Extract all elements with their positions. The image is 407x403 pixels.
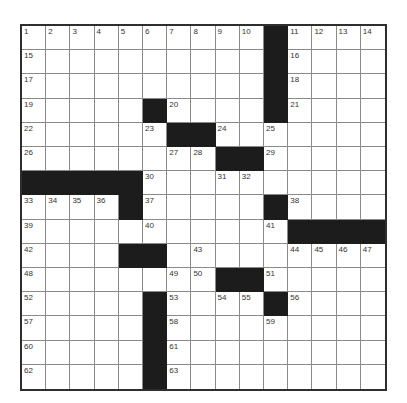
grid-cell[interactable] [46,147,70,171]
grid-cell[interactable] [240,316,264,340]
grid-cell[interactable] [119,365,143,389]
grid-cell[interactable]: 59 [264,316,288,340]
grid-cell[interactable]: 39 [22,220,46,244]
grid-cell[interactable] [167,244,191,268]
grid-cell[interactable] [70,268,94,292]
grid-cell[interactable] [312,147,336,171]
grid-cell[interactable] [191,50,215,74]
grid-cell[interactable] [95,365,119,389]
grid-cell[interactable] [46,365,70,389]
grid-cell[interactable] [361,123,385,147]
grid-cell[interactable] [191,365,215,389]
grid-cell[interactable] [240,50,264,74]
grid-cell[interactable]: 21 [288,99,312,123]
grid-cell[interactable]: 43 [191,244,215,268]
grid-cell[interactable] [70,147,94,171]
grid-cell[interactable] [46,123,70,147]
grid-cell[interactable]: 53 [167,292,191,316]
grid-cell[interactable] [312,268,336,292]
grid-cell[interactable] [216,195,240,219]
grid-cell[interactable]: 26 [22,147,46,171]
grid-cell[interactable]: 38 [288,195,312,219]
grid-cell[interactable] [312,50,336,74]
grid-cell[interactable]: 15 [22,50,46,74]
grid-cell[interactable]: 32 [240,171,264,195]
grid-cell[interactable] [95,268,119,292]
grid-cell[interactable]: 50 [191,268,215,292]
grid-cell[interactable] [312,195,336,219]
grid-cell[interactable] [46,316,70,340]
grid-cell[interactable]: 17 [22,74,46,98]
grid-cell[interactable]: 11 [288,26,312,50]
grid-cell[interactable]: 24 [216,123,240,147]
grid-cell[interactable]: 18 [288,74,312,98]
grid-cell[interactable] [361,147,385,171]
grid-cell[interactable] [312,341,336,365]
grid-cell[interactable]: 9 [216,26,240,50]
grid-cell[interactable] [240,341,264,365]
grid-cell[interactable]: 10 [240,26,264,50]
grid-cell[interactable] [70,244,94,268]
grid-cell[interactable] [46,99,70,123]
grid-cell[interactable] [70,316,94,340]
grid-cell[interactable] [361,195,385,219]
grid-cell[interactable]: 42 [22,244,46,268]
grid-cell[interactable] [70,123,94,147]
grid-cell[interactable] [337,123,361,147]
grid-cell[interactable] [70,74,94,98]
grid-cell[interactable] [337,341,361,365]
grid-cell[interactable] [70,99,94,123]
grid-cell[interactable]: 30 [143,171,167,195]
grid-cell[interactable] [191,171,215,195]
grid-cell[interactable] [240,99,264,123]
grid-cell[interactable] [312,123,336,147]
grid-cell[interactable] [337,316,361,340]
grid-cell[interactable]: 27 [167,147,191,171]
grid-cell[interactable] [191,316,215,340]
grid-cell[interactable] [288,171,312,195]
grid-cell[interactable]: 61 [167,341,191,365]
grid-cell[interactable] [264,171,288,195]
grid-cell[interactable] [167,195,191,219]
grid-cell[interactable]: 58 [167,316,191,340]
grid-cell[interactable] [46,268,70,292]
grid-cell[interactable] [95,220,119,244]
grid-cell[interactable]: 4 [95,26,119,50]
grid-cell[interactable] [337,171,361,195]
grid-cell[interactable]: 25 [264,123,288,147]
grid-cell[interactable] [95,99,119,123]
grid-cell[interactable] [361,268,385,292]
grid-cell[interactable]: 1 [22,26,46,50]
grid-cell[interactable]: 40 [143,220,167,244]
grid-cell[interactable] [95,147,119,171]
grid-cell[interactable] [288,268,312,292]
grid-cell[interactable]: 57 [22,316,46,340]
grid-cell[interactable] [119,316,143,340]
grid-cell[interactable]: 41 [264,220,288,244]
grid-cell[interactable] [216,316,240,340]
grid-cell[interactable] [167,74,191,98]
grid-cell[interactable] [240,123,264,147]
grid-cell[interactable] [191,99,215,123]
grid-cell[interactable] [95,244,119,268]
grid-cell[interactable] [46,244,70,268]
grid-cell[interactable] [337,99,361,123]
grid-cell[interactable]: 16 [288,50,312,74]
grid-cell[interactable] [312,171,336,195]
grid-cell[interactable] [46,50,70,74]
grid-cell[interactable]: 44 [288,244,312,268]
grid-cell[interactable]: 45 [312,244,336,268]
grid-cell[interactable] [167,171,191,195]
grid-cell[interactable] [216,365,240,389]
grid-cell[interactable] [337,147,361,171]
grid-cell[interactable] [216,74,240,98]
grid-cell[interactable]: 37 [143,195,167,219]
grid-cell[interactable]: 19 [22,99,46,123]
grid-cell[interactable] [191,220,215,244]
grid-cell[interactable] [361,341,385,365]
grid-cell[interactable] [337,74,361,98]
grid-cell[interactable] [288,365,312,389]
grid-cell[interactable] [312,292,336,316]
grid-cell[interactable] [361,171,385,195]
grid-cell[interactable]: 6 [143,26,167,50]
